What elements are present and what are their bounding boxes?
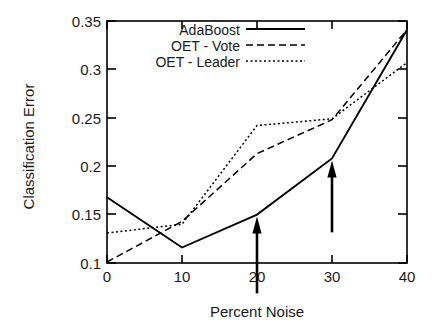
x-tick-label: 10: [162, 268, 202, 285]
x-tick-label: 20: [237, 268, 277, 285]
annotation-arrow-2: [327, 160, 336, 232]
legend-label-adaboost: AdaBoost: [100, 22, 240, 38]
y-tick-label: 0.2: [55, 158, 101, 175]
legend-line-samples: [246, 29, 305, 61]
x-tick-label: 40: [387, 268, 427, 285]
x-axis-title: Percent Noise: [107, 303, 407, 320]
series-line-oet-leader: [107, 63, 407, 233]
legend-label-oet-vote: OET - Vote: [100, 38, 240, 54]
y-tick-label: 0.3: [55, 61, 101, 78]
y-tick-label: 0.35: [55, 13, 101, 30]
y-tick-label: 0.25: [55, 110, 101, 127]
y-axis-title: Classification Error: [20, 57, 37, 237]
chart-figure: 0.35 0.3 0.25 0.2 0.15 0.1 0 10 20 30 40…: [0, 0, 434, 331]
x-tick-label: 30: [312, 268, 352, 285]
x-tick-label: 0: [87, 268, 127, 285]
legend-label-oet-leader: OET - Leader: [100, 54, 240, 70]
y-tick-label: 0.15: [55, 206, 101, 223]
